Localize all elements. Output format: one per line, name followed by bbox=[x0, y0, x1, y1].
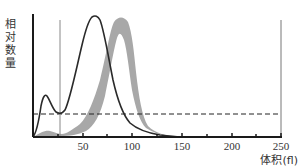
y-label-char: 数 bbox=[5, 44, 19, 57]
y-axis-label: 相 对 数 量 bbox=[5, 18, 19, 70]
x-tick-label-100: 100 bbox=[124, 140, 141, 152]
reference-band bbox=[33, 18, 180, 138]
x-tick-label-50: 50 bbox=[78, 140, 89, 152]
x-tick-label-150: 150 bbox=[174, 140, 191, 152]
y-label-char: 对 bbox=[5, 31, 19, 44]
y-label-char: 量 bbox=[5, 57, 19, 70]
x-axis-label: 体积(fl) bbox=[260, 151, 298, 167]
histogram-chart bbox=[0, 0, 304, 168]
y-label-char: 相 bbox=[5, 18, 19, 31]
x-tick-label-200: 200 bbox=[224, 140, 241, 152]
